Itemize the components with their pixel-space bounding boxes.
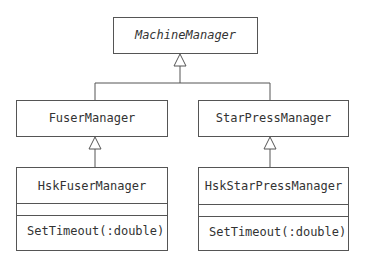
class-name: HskStarPressManager [199,179,348,193]
operation: SetTimeout(:double) [209,225,346,239]
class-star-press-manager: StarPressManager [198,100,349,137]
generalization-arrow-icon [174,54,186,66]
attributes-divider [199,204,348,205]
class-name: HskFuserManager [17,179,167,193]
class-fuser-manager: FuserManager [16,100,168,137]
class-hsk-fuser-manager: HskFuserManager SetTimeout(:double) [16,167,168,251]
class-name: FuserManager [17,111,167,125]
operations-divider [199,216,348,217]
generalization-arrow-icon [89,137,101,149]
class-machine-manager: MachineManager [113,17,258,54]
operation: SetTimeout(:double) [27,224,164,238]
operations-divider [17,215,167,216]
generalization-arrow-icon [264,137,276,149]
class-hsk-star-press-manager: HskStarPressManager SetTimeout(:double) [198,167,349,251]
class-name: MachineManager [114,28,257,42]
attributes-divider [17,203,167,204]
class-name: StarPressManager [199,111,348,125]
